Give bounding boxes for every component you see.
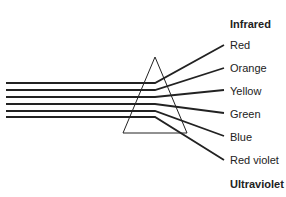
- label-yellow: Yellow: [230, 85, 261, 97]
- label-ultraviolet: Ultraviolet: [230, 178, 284, 190]
- ray-yellow: [6, 90, 224, 97]
- ray-red: [6, 45, 224, 83]
- label-infrared: Infrared: [230, 18, 271, 30]
- ray-blue: [6, 111, 224, 136]
- ray-orange: [6, 68, 224, 90]
- label-red: Red: [230, 39, 250, 51]
- prism-diagram: Infrared Red Orange Yellow Green Blue Re…: [0, 0, 286, 197]
- label-red-violet: Red violet: [230, 154, 279, 166]
- label-green: Green: [230, 108, 261, 120]
- label-orange: Orange: [230, 62, 267, 74]
- label-blue: Blue: [230, 131, 252, 143]
